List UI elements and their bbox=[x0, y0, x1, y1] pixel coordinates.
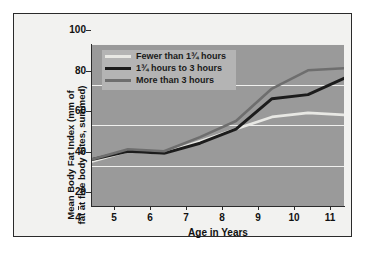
x-tick-label-6: 6 bbox=[138, 212, 162, 223]
y-tick-mark-80 bbox=[86, 71, 91, 72]
x-tick-mark-9 bbox=[258, 206, 259, 210]
x-tick-label-9: 9 bbox=[246, 212, 270, 223]
legend-item-1: 1¾ hours to 3 hours bbox=[102, 62, 236, 74]
x-tick-label-7: 7 bbox=[174, 212, 198, 223]
legend-item-0: Fewer than 1¾ hours bbox=[102, 50, 236, 62]
series-line-1 bbox=[92, 78, 344, 159]
legend-label-1: 1¾ hours to 3 hours bbox=[136, 63, 222, 73]
y-tick-mark-100 bbox=[86, 30, 91, 31]
figure-frame: Mean Body Fat Index (mm of fat at five b… bbox=[13, 13, 352, 237]
y-tick-mark-20 bbox=[86, 192, 91, 193]
y-tick-label-60: 60 bbox=[44, 106, 86, 116]
x-tick-label-11: 11 bbox=[318, 212, 342, 223]
legend-swatch-more-than-3-hours bbox=[105, 79, 131, 82]
legend: Fewer than 1¾ hours 1¾ hours to 3 hours … bbox=[102, 50, 236, 90]
x-axis-title: Age in Years bbox=[92, 227, 344, 238]
x-tick-mark-11 bbox=[330, 206, 331, 210]
y-tick-label-20: 20 bbox=[44, 187, 86, 197]
y-tick-label-40: 40 bbox=[44, 147, 86, 157]
x-tick-label-8: 8 bbox=[210, 212, 234, 223]
y-tick-mark-60 bbox=[86, 111, 91, 112]
legend-swatch-1-3-4-hours-to-3-hours bbox=[105, 67, 131, 70]
x-tick-mark-7 bbox=[186, 206, 187, 210]
y-tick-mark-40 bbox=[86, 152, 91, 153]
x-tick-mark-6 bbox=[150, 206, 151, 210]
x-axis-line bbox=[91, 206, 345, 207]
figure-page: Mean Body Fat Index (mm of fat at five b… bbox=[0, 0, 366, 255]
x-tick-label-4: 4 bbox=[66, 212, 90, 223]
x-tick-mark-8 bbox=[222, 206, 223, 210]
x-tick-mark-10 bbox=[294, 206, 295, 210]
x-tick-label-10: 10 bbox=[282, 212, 306, 223]
legend-item-2: More than 3 hours bbox=[102, 74, 236, 86]
x-tick-mark-5 bbox=[114, 206, 115, 210]
legend-label-0: Fewer than 1¾ hours bbox=[136, 51, 226, 61]
x-tick-label-5: 5 bbox=[102, 212, 126, 223]
legend-label-2: More than 3 hours bbox=[136, 75, 214, 85]
y-tick-label-100: 100 bbox=[44, 25, 86, 35]
x-tick-mark-4 bbox=[78, 206, 79, 210]
plot-panel: Fewer than 1¾ hours 1¾ hours to 3 hours … bbox=[92, 44, 344, 206]
legend-swatch-fewer-than-1-3-4-hours bbox=[105, 55, 131, 58]
y-tick-label-80: 80 bbox=[44, 66, 86, 76]
